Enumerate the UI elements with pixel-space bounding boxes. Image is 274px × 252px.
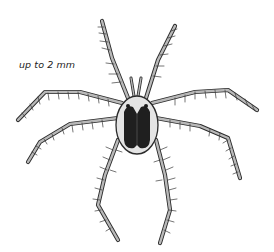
eye-right [144,104,148,108]
palps [131,78,141,96]
mite-illustration: up to 2 mm [0,0,274,252]
eye-left [126,104,130,108]
mite-drawing [0,0,274,252]
